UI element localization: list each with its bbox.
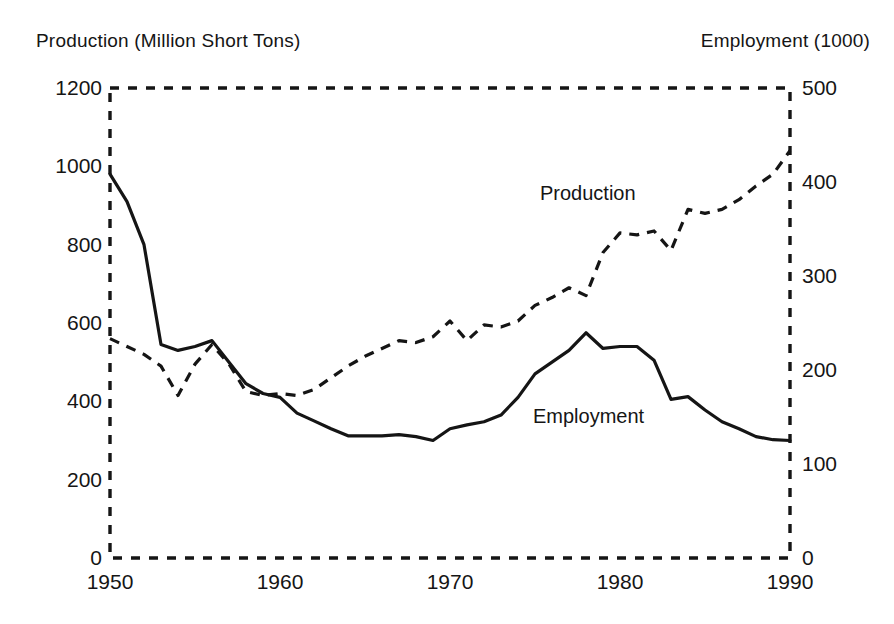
left-tick-400: 400: [10, 389, 102, 413]
right-tick-100: 100: [802, 452, 837, 476]
right-axis-title: Employment (1000): [701, 30, 870, 52]
left-tick-800: 800: [10, 233, 102, 257]
chart-svg: [110, 88, 790, 558]
plot-area: [110, 88, 790, 558]
x-tick-1970: 1970: [427, 570, 474, 594]
right-tick-0: 0: [802, 546, 814, 570]
right-tick-200: 200: [802, 358, 837, 382]
series-label-employment: Employment: [533, 405, 644, 428]
series-label-production: Production: [540, 182, 636, 205]
x-tick-1990: 1990: [767, 570, 814, 594]
left-tick-600: 600: [10, 311, 102, 335]
left-tick-1200: 1200: [10, 76, 102, 100]
left-tick-0: 0: [10, 546, 102, 570]
x-tick-1950: 1950: [87, 570, 134, 594]
x-tick-1960: 1960: [257, 570, 304, 594]
chart-figure: Production (Million Short Tons) Employme…: [0, 0, 894, 624]
left-axis-title: Production (Million Short Tons): [36, 30, 301, 52]
right-tick-300: 300: [802, 264, 837, 288]
employment-series-line: [110, 174, 790, 440]
right-tick-500: 500: [802, 76, 837, 100]
production-series-line: [110, 151, 790, 396]
x-tick-1980: 1980: [597, 570, 644, 594]
left-tick-1000: 1000: [10, 154, 102, 178]
right-tick-400: 400: [802, 170, 837, 194]
left-tick-200: 200: [10, 468, 102, 492]
